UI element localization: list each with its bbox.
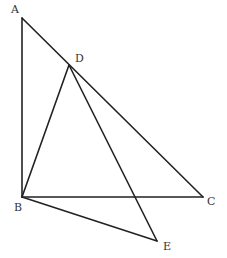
geometry-figure: A B C D E (0, 0, 227, 258)
segment-DE (69, 65, 157, 241)
label-C: C (207, 195, 215, 208)
segment-BE (22, 197, 157, 241)
label-A: A (10, 3, 20, 16)
label-D: D (75, 52, 84, 65)
label-E: E (163, 240, 171, 253)
segment-AC (22, 18, 203, 197)
segment-BD (22, 65, 69, 197)
label-B: B (14, 201, 22, 214)
